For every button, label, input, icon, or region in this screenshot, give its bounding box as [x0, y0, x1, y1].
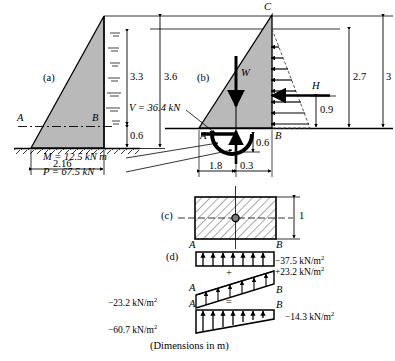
panel-a-point-A: A [17, 113, 23, 124]
panel-d-combined-stress-b-value: −14.3 kN/m2 [285, 311, 334, 323]
panel-c-label: (c) [161, 211, 173, 222]
panel-b-dim-2-7-label: 2.7 [353, 72, 366, 83]
panel-d-stress-diagrams [196, 252, 274, 333]
bending-stress-b-text: +23.2 kN/m [275, 267, 321, 277]
panel-b-dim-3-label: 3 [386, 72, 391, 83]
panel-c-dim-1-label: 1 [299, 211, 304, 222]
panel-b-point-A: A [200, 131, 206, 142]
panel-b-force-H-label: H [312, 81, 320, 92]
panel-d2-point-B: B [276, 285, 282, 296]
panel-b-dim-1-8-label: 1.8 [209, 161, 222, 172]
panel-b-point-C: C [264, 2, 271, 13]
panel-b-point-B: B [275, 131, 281, 142]
resultant-moment-label: M = 12.5 kN m [43, 152, 107, 163]
panel-b-dim-0-9-label: 0.9 [320, 105, 333, 116]
resultant-axial-label: P = 67.5 kN [43, 167, 94, 178]
combined-stress-a-exponent: 2 [154, 323, 157, 330]
panel-b-moment-arc [212, 134, 252, 154]
panel-d3-point-A: A [189, 299, 195, 310]
panel-a-dim-0-6-label: 0.6 [130, 131, 143, 142]
direct-stress-exponent: 2 [321, 254, 324, 261]
panel-b-dim-0-3-label: 0.3 [240, 161, 253, 172]
panel-a-water-symbols [106, 33, 121, 124]
bending-stress-a-text: −23.2 kN/m [108, 298, 154, 308]
panel-d2-point-A: A [189, 283, 195, 294]
panel-b-free-body [126, 15, 393, 177]
dam-stress-figure: (a) A B 3.3 0.6 3.6 2.16 (b) C A B W H 2… [0, 0, 395, 361]
bending-stress-a-exponent: 2 [154, 296, 157, 303]
panel-d-combined-stress-a-value: −60.7 kN/m2 [108, 324, 157, 336]
panel-d-direct-stress-value: −37.5 kN/m2 [275, 255, 324, 267]
panel-d-label: (d) [166, 252, 178, 263]
panel-a-dim-3-6-label: 3.6 [164, 72, 177, 83]
combined-stress-b-text: −14.3 kN/m [285, 312, 331, 322]
figure-caption: (Dimensions in m) [150, 341, 229, 352]
combined-stress-b-exponent: 2 [331, 310, 334, 317]
panel-a-dam-body [31, 16, 104, 148]
panel-c-centroid-marker [232, 214, 239, 221]
panel-b-label: (b) [197, 73, 209, 84]
panel-d-direct-stress-block [196, 252, 274, 266]
panel-a-point-B: B [92, 113, 98, 124]
panel-d3-point-B: B [276, 300, 282, 311]
figure-vector-graphics [0, 0, 395, 361]
panel-b-dim-0-6-label: 0.6 [256, 138, 269, 149]
combined-stress-a-text: −60.7 kN/m [108, 325, 154, 335]
panel-d-operator-equals: = [226, 297, 232, 308]
panel-d1-point-A: A [189, 240, 195, 251]
panel-a-dim-3-3-label: 3.3 [130, 72, 143, 83]
panel-d-bending-stress-block [196, 271, 274, 308]
direct-stress-text: −37.5 kN/m [275, 256, 321, 266]
panel-b-pressure-arrows [271, 47, 309, 124]
panel-a-label: (a) [43, 73, 55, 84]
bending-stress-b-exponent: 2 [321, 265, 324, 272]
panel-d-operator-plus: + [226, 268, 232, 279]
panel-d-combined-stress-block [196, 310, 274, 333]
panel-b-force-W-label: W [241, 68, 250, 79]
panel-d-bending-stress-b-value: +23.2 kN/m2 [275, 266, 324, 278]
panel-d1-point-B: B [276, 240, 282, 251]
panel-d-bending-stress-a-value: −23.2 kN/m2 [108, 297, 157, 309]
resultant-shear-label: V = 36.4 kN [129, 103, 180, 114]
